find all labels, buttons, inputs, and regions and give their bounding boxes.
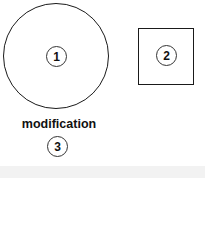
badge-3: 3 xyxy=(47,136,68,157)
modification-label: modification xyxy=(0,117,118,131)
badge-2: 2 xyxy=(156,45,177,66)
bottom-band xyxy=(0,166,205,178)
badge-1: 1 xyxy=(46,46,67,67)
